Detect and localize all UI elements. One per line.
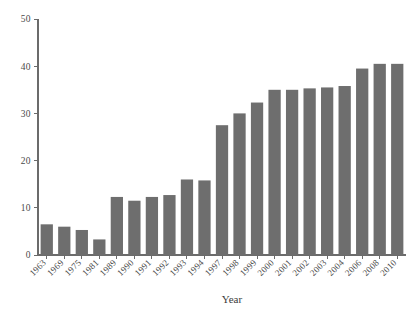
bar bbox=[286, 90, 298, 255]
x-tick-label: 2006 bbox=[343, 257, 364, 278]
y-tick-label: 50 bbox=[21, 14, 31, 24]
x-tick-label: 2001 bbox=[273, 257, 294, 278]
x-tick-label: 1989 bbox=[98, 257, 119, 278]
y-tick-label: 10 bbox=[21, 203, 31, 213]
x-tick-label: 1991 bbox=[133, 257, 154, 278]
y-tick-label: 20 bbox=[21, 156, 31, 166]
x-tick-label: 1981 bbox=[80, 257, 101, 278]
x-tick-label: 1993 bbox=[168, 257, 189, 278]
bar-chart: 01020304050 1963196919751981198919901991… bbox=[0, 0, 417, 315]
x-tick-label: 1997 bbox=[203, 257, 224, 278]
bar bbox=[58, 227, 70, 255]
x-axis-title: Year bbox=[222, 293, 243, 305]
x-tick-label: 2002 bbox=[290, 257, 311, 278]
bar bbox=[93, 239, 105, 255]
x-tick-labels: 1963196919751981198919901991199219931994… bbox=[28, 257, 399, 278]
x-tick-label: 1992 bbox=[150, 257, 171, 278]
x-tick-label: 1975 bbox=[63, 257, 84, 278]
y-axis: 01020304050 bbox=[21, 14, 38, 260]
x-tick-label: 2008 bbox=[360, 257, 381, 278]
bar bbox=[233, 113, 245, 255]
bar-series bbox=[41, 64, 404, 255]
bar bbox=[391, 64, 403, 255]
x-tick-label: 1990 bbox=[115, 257, 136, 278]
bar bbox=[76, 230, 88, 255]
bar bbox=[216, 125, 228, 255]
y-tick-label: 0 bbox=[26, 250, 31, 260]
x-tick-label: 1998 bbox=[220, 257, 241, 278]
bar bbox=[374, 64, 386, 255]
x-tick-label: 2003 bbox=[308, 257, 329, 278]
bar bbox=[111, 197, 123, 255]
x-tick-label: 1969 bbox=[45, 257, 66, 278]
bar bbox=[321, 87, 333, 255]
bar bbox=[146, 197, 158, 255]
chart-canvas: 01020304050 1963196919751981198919901991… bbox=[0, 0, 417, 315]
bar bbox=[198, 180, 210, 255]
y-tick-label: 40 bbox=[21, 62, 31, 72]
bar bbox=[128, 201, 140, 255]
bar bbox=[41, 224, 53, 255]
bar bbox=[181, 179, 193, 255]
bar bbox=[163, 195, 175, 255]
y-tick-label: 30 bbox=[21, 109, 31, 119]
x-tick-label: 1999 bbox=[238, 257, 259, 278]
x-tick-label: 2010 bbox=[378, 257, 399, 278]
x-tick-label: 2000 bbox=[255, 257, 276, 278]
bar bbox=[356, 69, 368, 255]
bar bbox=[268, 90, 280, 255]
x-tick-label: 1994 bbox=[185, 257, 206, 278]
x-tick-label: 2004 bbox=[325, 257, 346, 278]
bar bbox=[251, 103, 263, 255]
bar bbox=[303, 88, 315, 255]
bar bbox=[339, 86, 351, 255]
